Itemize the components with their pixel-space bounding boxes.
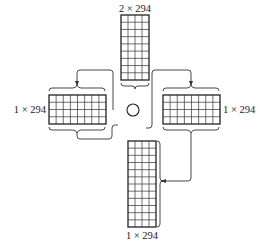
central-hub [127,104,139,116]
wire-right-to-bottom [162,133,191,181]
right-panel-label: 1 × 294 [223,104,256,115]
wire-hub-to-bottom [146,110,152,128]
left-panel-label: 1 × 294 [14,104,47,115]
right-solar-panel [163,95,220,124]
top-solar-panel [121,15,149,80]
top-panel-label: 2 × 294 [119,3,152,14]
diagram-canvas: 2 × 294 1 × 294 1 × 294 1 × 294 [0,0,265,250]
bottom-solar-panel [128,141,156,227]
left-solar-panel [49,95,106,124]
left-panel-top-brace [49,85,105,91]
bottom-panel-label: 1 × 294 [126,230,159,241]
top-panel-brace [121,83,149,89]
bottom-panel-side-brace [157,141,163,227]
wire-hub-to-left [77,70,113,110]
wire-hub-to-right [152,70,191,110]
wire-left-to-hub [77,125,118,139]
right-panel-top-brace [163,85,219,91]
right-panel-bottom-brace [163,127,219,133]
left-panel-bottom-brace [49,127,105,133]
